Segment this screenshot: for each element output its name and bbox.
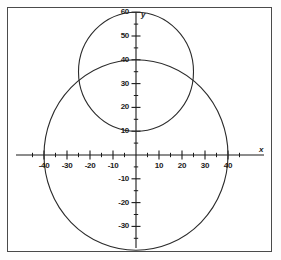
y-tick-label: 10	[121, 127, 129, 135]
x-tick-label: -30	[62, 162, 73, 170]
y-tick-label: 50	[121, 32, 129, 40]
axis-lines	[16, 12, 264, 248]
y-tick-label: -10	[118, 175, 129, 183]
x-tick-label: -10	[108, 162, 119, 170]
x-tick-label: 40	[224, 162, 232, 170]
x-tick-label: -40	[39, 162, 50, 170]
figure-container: -40-30-20-1010203040605040302010-10-20-3…	[0, 0, 281, 260]
y-tick-label: -30	[118, 222, 129, 230]
plot-canvas	[0, 0, 281, 260]
x-axis-label: x	[259, 146, 263, 154]
x-tick-label: -20	[85, 162, 96, 170]
x-tick-label: 20	[178, 162, 186, 170]
y-tick-label: 20	[121, 103, 129, 111]
y-tick-label: 30	[121, 80, 129, 88]
y-axis-label: y	[141, 11, 145, 19]
x-tick-label: 10	[155, 162, 163, 170]
x-tick-label: 30	[201, 162, 209, 170]
y-tick-label: 40	[121, 56, 129, 64]
y-tick-label: -20	[118, 199, 129, 207]
y-tick-label: 60	[121, 8, 129, 16]
